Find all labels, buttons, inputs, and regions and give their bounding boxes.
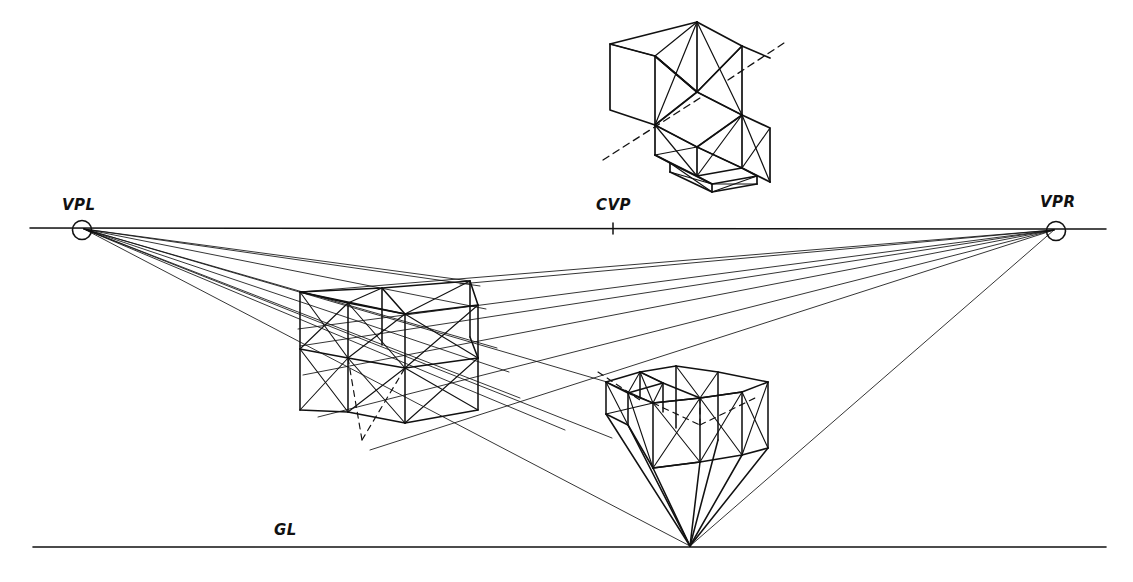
right-cube-group [598,366,768,546]
vanishing-point-markers [73,221,1066,241]
perspective-construction-drawing [0,0,1133,582]
left-cube-group [300,281,478,440]
horizon-line [30,228,1106,229]
axono-dashed-axis [603,43,784,160]
left-group-hidden-lines [348,358,405,440]
vpl-label: VPL [62,196,96,214]
drawing-sheet: VPL VPR CVP GL [0,0,1133,582]
vpr-label: VPR [1040,193,1076,211]
cvp-label: CVP [596,196,631,214]
axonometric-cube-cluster [603,22,784,192]
vpl-convergence-rays [84,229,690,546]
gl-label: GL [274,521,297,539]
